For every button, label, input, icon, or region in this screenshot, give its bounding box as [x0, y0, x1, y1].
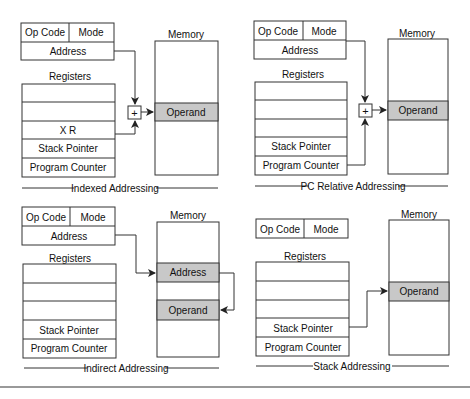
mode-field: Mode	[311, 26, 336, 37]
memory-label: Memory	[168, 29, 204, 40]
mode-field: Mode	[313, 224, 338, 235]
register-program-counter: Program Counter	[31, 343, 108, 354]
register-stack-pointer: Stack Pointer	[273, 323, 333, 334]
opcode-field: Op Code	[26, 212, 66, 223]
arrows	[346, 41, 386, 165]
address-field: Address	[51, 231, 88, 242]
caption-indirect: Indirect Addressing	[83, 363, 168, 374]
register-xr: X R	[60, 125, 77, 136]
panel-pc-relative-addressing: Op Code Mode Address Registers Stack Poi…	[254, 21, 448, 192]
caption-stack: Stack Addressing	[313, 361, 390, 372]
registers-label: Registers	[49, 253, 91, 264]
memory-label: Memory	[399, 28, 435, 39]
adder: +	[128, 106, 141, 119]
memory-operand: Operand	[169, 305, 208, 316]
register-program-counter: Program Counter	[263, 160, 340, 171]
register-program-counter: Program Counter	[265, 342, 342, 353]
register-stack-pointer: Stack Pointer	[39, 325, 99, 336]
arrows	[349, 291, 387, 327]
svg-text:+: +	[362, 105, 368, 117]
addressing-modes-diagram: Op Code Mode Address Registers X R Stack…	[0, 0, 470, 399]
address-field: Address	[50, 46, 87, 57]
panel-stack-addressing: Op Code Mode Registers Stack Pointer Pro…	[256, 209, 449, 372]
mode-field: Mode	[78, 27, 103, 38]
caption-pc-relative: PC Relative Addressing	[300, 181, 405, 192]
address-field: Address	[282, 45, 319, 56]
opcode-field: Op Code	[258, 26, 298, 37]
opcode-field: Op Code	[25, 27, 65, 38]
caption-indexed: Indexed Addressing	[71, 183, 159, 194]
memory-address: Address	[170, 267, 207, 278]
mode-field: Mode	[80, 212, 105, 223]
adder: +	[359, 104, 372, 117]
memory-label: Memory	[170, 210, 206, 221]
memory-block	[157, 222, 219, 357]
memory-label: Memory	[401, 209, 437, 220]
panel-indexed-addressing: Op Code Mode Address Registers X R Stack…	[21, 23, 218, 194]
registers-label: Registers	[282, 69, 324, 80]
memory-operand: Operand	[400, 286, 439, 297]
register-stack-pointer: Stack Pointer	[38, 143, 98, 154]
memory-operand: Operand	[399, 105, 438, 116]
svg-text:+: +	[131, 107, 137, 119]
panel-indirect-addressing: Op Code Mode Address Registers Stack Poi…	[22, 207, 234, 374]
opcode-field: Op Code	[260, 224, 300, 235]
register-program-counter: Program Counter	[30, 162, 107, 173]
registers-label: Registers	[284, 251, 326, 262]
registers-label: Registers	[49, 71, 91, 82]
register-stack-pointer: Stack Pointer	[271, 141, 331, 152]
memory-operand: Operand	[167, 107, 206, 118]
arrows	[114, 51, 153, 134]
